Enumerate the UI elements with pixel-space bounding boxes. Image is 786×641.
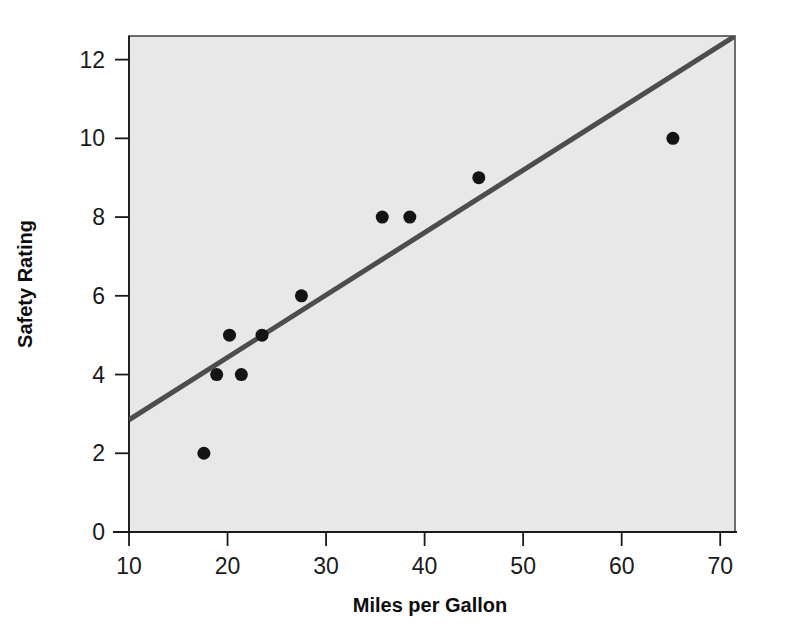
x-tick-label: 50	[510, 553, 536, 579]
x-tick-label: 20	[215, 553, 241, 579]
scatter-plot-figure: 02468101210203040506070 Miles per Gallon…	[0, 0, 786, 641]
y-tick-label: 6	[92, 283, 105, 309]
x-axis-title: Miles per Gallon	[353, 594, 507, 616]
x-tick-label: 10	[116, 553, 142, 579]
data-point-marker	[666, 132, 679, 145]
x-tick-label: 70	[707, 553, 733, 579]
x-tick-label: 40	[412, 553, 438, 579]
data-point-marker	[256, 329, 269, 342]
y-tick-label: 2	[92, 440, 105, 466]
y-axis-title: Safety Rating	[14, 220, 36, 348]
data-point-marker	[197, 447, 210, 460]
data-point-marker	[210, 368, 223, 381]
data-point-marker	[235, 368, 248, 381]
x-tick-label: 30	[313, 553, 339, 579]
y-tick-label: 12	[79, 47, 105, 73]
data-point-marker	[376, 211, 389, 224]
y-tick-label: 4	[92, 362, 105, 388]
y-tick-label: 0	[92, 519, 105, 545]
data-point-marker	[472, 171, 485, 184]
chart-canvas: 02468101210203040506070 Miles per Gallon…	[0, 0, 786, 641]
data-point-marker	[295, 289, 308, 302]
data-point-marker	[403, 211, 416, 224]
plot-area-rect	[129, 36, 735, 532]
y-tick-label: 10	[79, 125, 105, 151]
y-tick-label: 8	[92, 204, 105, 230]
plot-background	[129, 36, 735, 532]
data-point-marker	[223, 329, 236, 342]
x-tick-label: 60	[609, 553, 635, 579]
